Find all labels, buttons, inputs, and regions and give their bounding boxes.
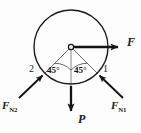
force-label-FN2: FN2	[2, 100, 17, 114]
force-label-FN2-subscript: N2	[9, 106, 17, 113]
force-label-P: P	[78, 113, 85, 125]
contact-point-label-2: 2	[29, 64, 34, 74]
center-point-marker	[68, 44, 73, 49]
force-vector-FN1	[100, 76, 124, 99]
contact-point-label-1: 1	[103, 64, 108, 74]
force-label-FN1-subscript: N1	[118, 106, 126, 113]
force-vector-FN2	[19, 76, 43, 99]
force-label-FN1: FN1	[111, 100, 126, 114]
free-body-diagram-figure: F P FN1 FN2 1 2 45° 45°	[0, 0, 141, 133]
force-label-F: F	[127, 36, 135, 48]
angle-label-left: 45°	[47, 66, 60, 75]
angle-label-right: 45°	[74, 66, 87, 75]
